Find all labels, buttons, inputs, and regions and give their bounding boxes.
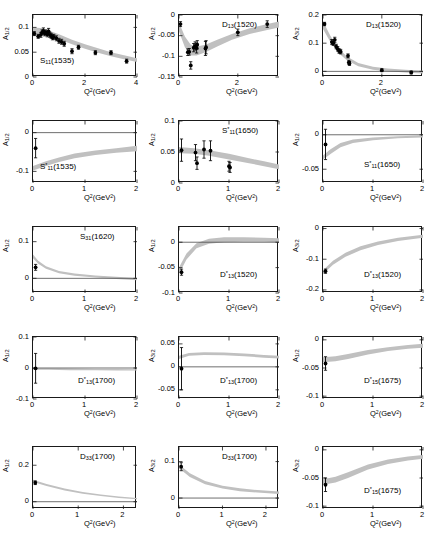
y-tick-label: 0: [292, 66, 319, 75]
y-tick-label: -0.05: [292, 164, 319, 173]
data-point-marker: [380, 68, 384, 72]
x-tick-label: 2: [272, 184, 284, 193]
y-axis-title: A1/2: [292, 133, 299, 146]
model-uncertainty-band: [33, 255, 137, 281]
resonance-label: S11(1535): [40, 56, 74, 65]
y-tick-label: 0.05: [148, 147, 175, 156]
resonance-label: S*11(1535): [40, 162, 76, 171]
x-tick-label: 0: [172, 400, 184, 409]
x-tick-label: 2: [130, 184, 142, 193]
x-tick-label: 4: [130, 78, 142, 87]
y-tick-label: -0.1: [292, 254, 319, 263]
x-tick-label: 2: [259, 510, 271, 519]
y-axis-title: A1/2: [2, 27, 9, 40]
plot-area: [322, 446, 422, 508]
plot-area: [32, 14, 136, 76]
y-axis-title: A1/2: [2, 459, 9, 472]
model-uncertainty-band: [33, 480, 137, 500]
y-tick-label: 0: [292, 223, 319, 232]
y-tick-label: -0.05: [148, 384, 175, 393]
data-point-marker: [179, 22, 183, 26]
x-axis-title: Q2(GeV2): [226, 409, 258, 418]
data-point-marker: [323, 22, 327, 26]
data-point-marker: [62, 42, 66, 46]
data-point-marker: [189, 64, 193, 68]
y-tick-label: 0: [292, 444, 319, 453]
x-tick-label: 2: [416, 510, 428, 519]
x-axis-title: Q2(GeV2): [226, 193, 258, 202]
plot-area: [322, 226, 422, 292]
x-tick-label: 2: [416, 184, 428, 193]
data-point-marker: [194, 151, 198, 155]
plot-svg: [323, 227, 423, 293]
y-axis-title: A3/2: [148, 459, 155, 472]
figure-panel-grid: 02400.050.1A1/2Q2(GeV2)S11(1535)02-0.15-…: [0, 0, 435, 549]
y-tick-label: 0: [2, 496, 29, 505]
data-point-marker: [179, 465, 183, 469]
y-axis-title: A1/2: [148, 239, 155, 252]
data-point-marker: [195, 43, 199, 47]
data-point-marker: [109, 51, 113, 55]
plot-area: [32, 120, 136, 182]
resonance-label: D*13(1520): [364, 270, 401, 279]
y-tick-label: -0.1: [2, 166, 29, 175]
data-point-marker: [333, 38, 337, 42]
x-axis-title: Q2(GeV2): [226, 303, 258, 312]
x-tick-label: 1: [222, 184, 234, 193]
x-tick-label: 1: [366, 510, 378, 519]
resonance-label: S*11(1650): [364, 160, 400, 169]
x-axis-title: Q2(GeV2): [84, 409, 116, 418]
y-tick-label: 0.05: [2, 47, 29, 56]
plot-svg: [179, 337, 279, 399]
x-axis-title: Q2(GeV2): [84, 87, 116, 96]
x-tick-label: 1: [215, 510, 227, 519]
y-axis-title: A1/2: [292, 349, 299, 362]
resonance-label: D*15(1675): [364, 376, 401, 385]
plot-area: [178, 226, 278, 292]
y-tick-label: 0: [2, 273, 29, 282]
y-axis-title: A3/2: [292, 459, 299, 472]
x-tick-label: 0: [316, 78, 328, 87]
y-tick-label: 0.2: [292, 10, 319, 19]
model-uncertainty-band: [323, 135, 423, 159]
model-uncertainty-band: [179, 237, 279, 274]
x-tick-label: 1: [78, 400, 90, 409]
y-tick-label: -0.1: [148, 288, 175, 297]
y-axis-title: A1/2: [148, 133, 155, 146]
resonance-label: D33(1700): [80, 452, 115, 461]
data-point-marker: [32, 32, 36, 36]
x-tick-label: 1: [78, 184, 90, 193]
data-point-marker: [324, 483, 328, 487]
y-axis-title: A1/2: [2, 349, 9, 362]
data-point-marker: [70, 49, 74, 53]
x-axis-title: Q2(GeV2): [226, 87, 258, 96]
y-tick-label: 0: [2, 363, 29, 372]
data-point-marker: [195, 46, 199, 50]
x-tick-label: 0: [316, 294, 328, 303]
data-point-marker: [180, 367, 184, 371]
data-point-marker: [204, 45, 208, 49]
data-point-marker: [324, 143, 328, 147]
x-axis-title: Q2(GeV2): [84, 303, 116, 312]
data-series: [33, 481, 37, 485]
data-point-marker: [180, 270, 184, 274]
x-tick-label: 2: [231, 78, 243, 87]
y-tick-label: -0.1: [292, 391, 319, 400]
y-tick-label: -0.05: [292, 473, 319, 482]
data-point-marker: [236, 30, 240, 34]
x-tick-label: 1: [366, 184, 378, 193]
data-point-marker: [180, 148, 184, 152]
data-point-marker: [34, 146, 38, 150]
plot-svg: [323, 337, 423, 399]
y-tick-label: -0.05: [148, 262, 175, 271]
data-point-marker: [228, 166, 232, 170]
x-tick-label: 2: [416, 294, 428, 303]
y-tick-label: -0.2: [292, 284, 319, 293]
data-point-marker: [187, 50, 191, 54]
x-tick-label: 0: [26, 510, 38, 519]
data-series: [34, 264, 38, 270]
y-tick-label: 0: [148, 361, 175, 370]
data-series: [180, 348, 184, 390]
resonance-label: S31(1620): [80, 232, 115, 241]
resonance-label: D33(1700): [222, 452, 257, 461]
